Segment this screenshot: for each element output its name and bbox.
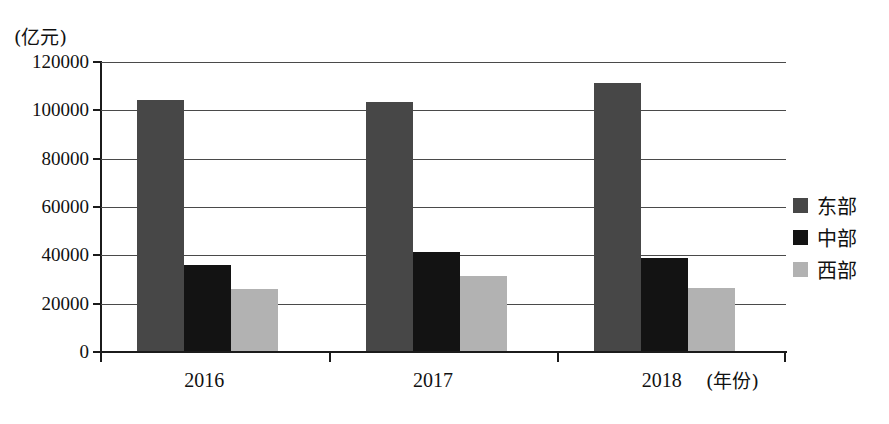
bar-中部-2018 [641,258,688,351]
y-axis-tick [93,109,101,111]
bar-东部-2016 [137,100,184,351]
legend-item-label: 西部 [817,255,857,284]
y-axis-tick [93,303,101,305]
x-axis-tick-label: 2017 [413,369,453,392]
legend-swatch-icon [793,230,808,245]
y-axis-tick-label: 60000 [42,196,90,218]
y-axis-tick [93,158,101,160]
y-axis-tick [93,61,101,63]
y-axis-tick-label: 20000 [42,293,90,315]
x-axis-unit-label: (年份) [706,366,759,393]
chart-legend: 东部中部西部 [793,189,883,285]
gridline [100,207,786,208]
bar-西部-2017 [460,276,507,351]
legend-item-东部: 东部 [793,189,883,221]
bar-西部-2016 [231,289,278,351]
legend-item-西部: 西部 [793,253,883,285]
gridline [100,110,786,111]
bar-东部-2017 [366,102,413,351]
gridline [100,159,786,160]
legend-item-label: 东部 [817,191,857,220]
y-axis-tick-label: 80000 [42,148,90,170]
bar-中部-2017 [413,252,460,351]
x-axis-tick [784,351,786,362]
x-axis-tick [100,351,102,362]
bar-东部-2018 [594,83,641,351]
y-axis-tick [93,206,101,208]
legend-swatch-icon [793,198,808,213]
y-axis-tick-label: 0 [80,341,90,363]
y-axis-tick-label: 40000 [42,244,90,266]
x-axis-tick-label: 2018 [642,369,682,392]
y-axis-tick-label: 120000 [32,51,89,73]
y-axis-tick [93,254,101,256]
legend-item-中部: 中部 [793,221,883,253]
x-axis-tick [557,351,559,362]
y-axis-tick-label: 100000 [32,99,89,121]
x-axis-tick-label: 2016 [184,369,224,392]
legend-swatch-icon [793,262,808,277]
bar-西部-2018 [688,288,735,351]
bar-chart: (亿元) 020000400006000080000100000120000 2… [0,0,889,424]
x-axis-tick [329,351,331,362]
plot-area: 020000400006000080000100000120000 201620… [100,62,786,352]
x-axis-line [100,351,787,353]
gridline [100,62,786,63]
bar-中部-2016 [184,265,231,351]
y-axis-unit-label: (亿元) [14,22,67,49]
legend-item-label: 中部 [817,223,857,252]
